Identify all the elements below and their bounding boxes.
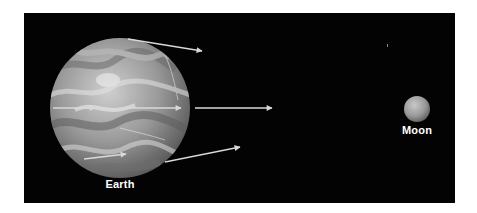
moon-label: Moon bbox=[402, 124, 432, 136]
star-speck bbox=[387, 44, 388, 47]
moon-sphere bbox=[404, 96, 430, 122]
earth-moon-diagram bbox=[0, 0, 477, 213]
earth-label: Earth bbox=[105, 178, 134, 190]
